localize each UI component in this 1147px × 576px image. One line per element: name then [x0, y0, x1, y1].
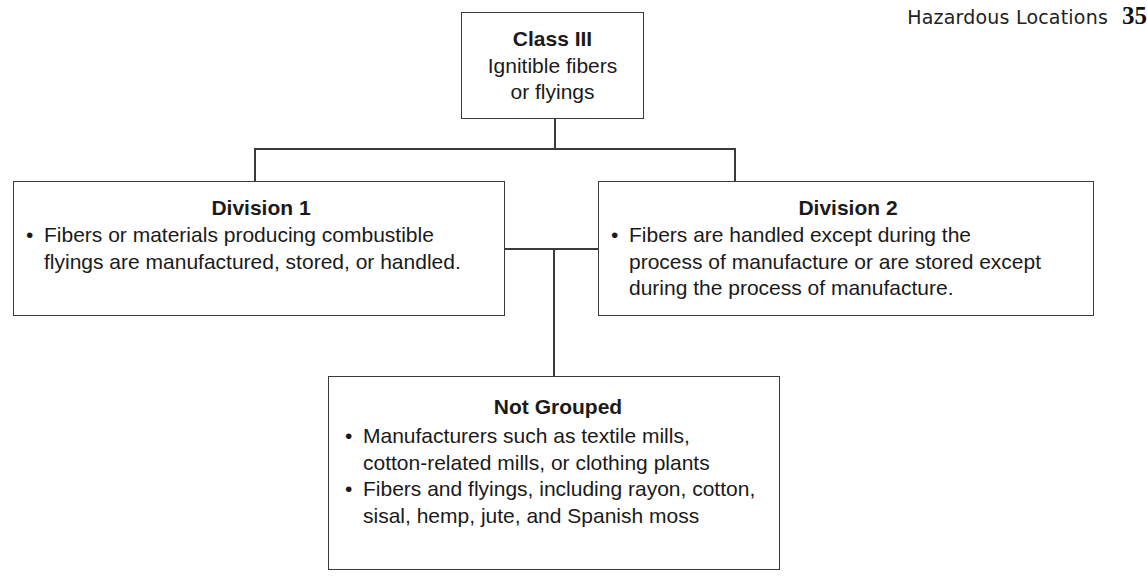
connector-root-down — [554, 118, 556, 149]
running-header-title: Hazardous Locations — [907, 6, 1108, 28]
class-iii-box: Class III Ignitible fibers or flyings — [461, 12, 644, 119]
class-iii-title: Class III — [462, 27, 643, 51]
connector-to-division-2 — [734, 148, 736, 181]
division-2-box: Division 2 Fibers are handled except dur… — [598, 181, 1094, 316]
not-grouped-title: Not Grouped — [347, 395, 769, 419]
division-2-bullet: Fibers are handled except during the pro… — [607, 222, 1083, 302]
division-2-title: Division 2 — [613, 196, 1083, 220]
connector-horizontal-top — [254, 148, 735, 150]
not-grouped-bullet-1: Manufacturers such as textile mills, cot… — [341, 423, 769, 476]
not-grouped-bullet-2: Fibers and flyings, including rayon, cot… — [341, 476, 769, 529]
class-iii-subtitle-line-2: or flyings — [462, 79, 643, 105]
division-1-box: Division 1 Fibers or materials producing… — [13, 181, 505, 316]
page-header: Hazardous Locations 35 — [907, 2, 1147, 38]
division-2-bullets: Fibers are handled except during the pro… — [607, 222, 1083, 302]
connector-to-division-1 — [254, 148, 256, 181]
page-number: 35 — [1122, 2, 1147, 30]
connector-divisions-horizontal — [504, 248, 598, 250]
class-iii-subtitle-line-1: Ignitible fibers — [462, 53, 643, 79]
not-grouped-bullets: Manufacturers such as textile mills, cot… — [341, 423, 769, 529]
connector-to-not-grouped — [553, 248, 555, 377]
not-grouped-box: Not Grouped Manufacturers such as textil… — [328, 376, 780, 570]
division-1-bullet: Fibers or materials producing combustibl… — [22, 222, 494, 275]
division-1-title: Division 1 — [28, 196, 494, 220]
division-1-bullets: Fibers or materials producing combustibl… — [22, 222, 494, 275]
